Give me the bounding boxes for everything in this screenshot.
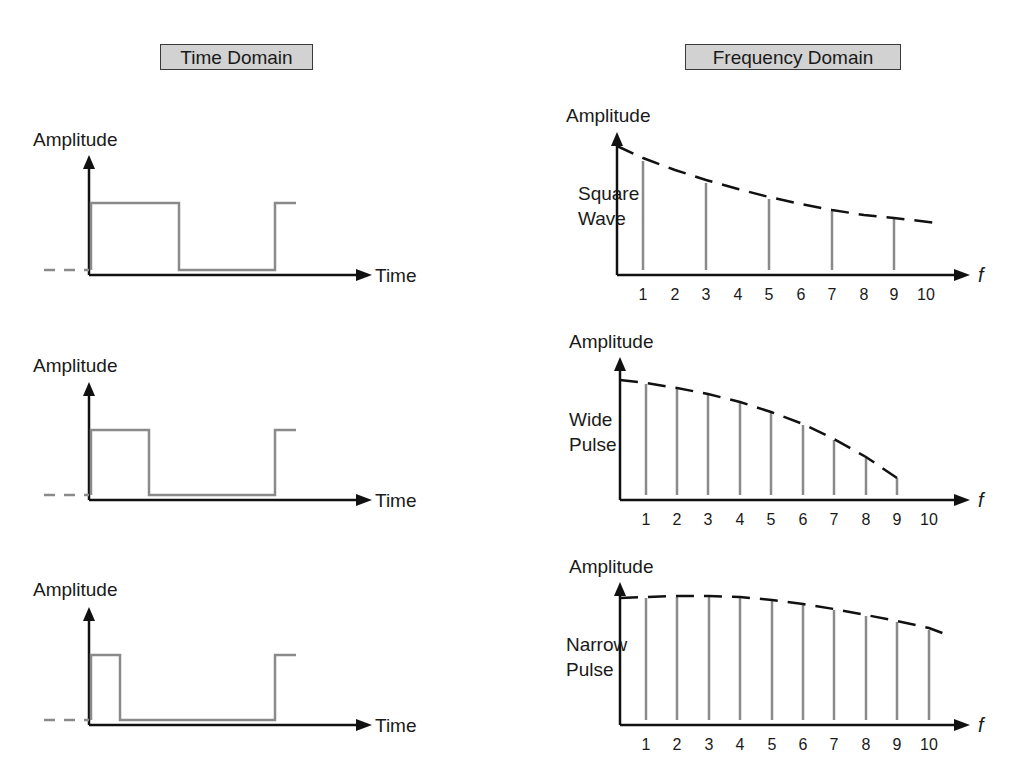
spectrum-label: Pulse [566,659,614,680]
frequency-domain-panels: AmplitudeSquareWavef12345678910Amplitude… [566,105,986,753]
y-axis-arrow-icon [83,155,95,169]
pulse-waveform [91,655,296,720]
tick-label: 8 [862,736,871,753]
narrow-pulse-spectrum: AmplitudeNarrowPulsef12345678910 [566,556,986,753]
tick-label: 1 [642,736,651,753]
square-wave-spectrum: AmplitudeSquareWavef12345678910 [566,105,986,303]
tick-label: 3 [704,511,713,528]
tick-label: 4 [736,511,745,528]
tick-label: 6 [799,736,808,753]
tick-label: 9 [890,286,899,303]
pulse-waveform [91,430,296,495]
tick-label: 7 [828,286,837,303]
tick-label: 3 [702,286,711,303]
tick-label: 3 [705,736,714,753]
tick-label: 6 [799,511,808,528]
tick-label: 5 [768,736,777,753]
diagram-canvas: AmplitudeTimeAmplitudeTimeAmplitudeTime … [0,0,1016,778]
tick-label: 2 [673,736,682,753]
spectrum-label: Narrow [566,634,628,655]
tick-label: 7 [830,736,839,753]
tick-label: 8 [862,511,871,528]
tick-label: 5 [765,286,774,303]
y-axis-label: Amplitude [569,556,654,577]
y-axis-label: Amplitude [566,105,651,126]
x-axis-arrow-icon [356,269,372,281]
time-domain-panels: AmplitudeTimeAmplitudeTimeAmplitudeTime [33,129,417,736]
x-axis-arrow-icon [356,494,372,506]
envelope-dashed-line [617,146,937,223]
tick-label: 10 [920,511,938,528]
spectrum-label: Wide [569,409,612,430]
y-axis-arrow-icon [83,382,95,396]
tick-label: 2 [673,511,682,528]
y-axis-arrow-icon [614,582,626,596]
tick-label: 1 [639,286,648,303]
narrow-pulse-time: AmplitudeTime [33,579,417,736]
tick-label: 5 [767,511,776,528]
y-axis-label: Amplitude [569,331,654,352]
tick-label: 9 [893,736,902,753]
pulse-waveform [91,203,296,270]
spectrum-label: Square [578,183,639,204]
x-axis-label: f [978,489,986,511]
square-wave-time: AmplitudeTime [33,129,417,286]
tick-label: 4 [734,286,743,303]
y-axis-arrow-icon [611,132,623,146]
y-axis-arrow-icon [614,357,626,371]
tick-label: 2 [671,286,680,303]
spectrum-label: Wave [578,208,626,229]
tick-label: 4 [736,736,745,753]
tick-label: 10 [917,286,935,303]
x-axis-label: Time [375,490,417,511]
spectrum-label: Pulse [569,434,617,455]
wide-pulse-time: AmplitudeTime [33,355,417,511]
y-axis-label: Amplitude [33,355,118,376]
tick-label: 1 [642,511,651,528]
y-axis-arrow-icon [83,607,95,621]
x-axis-label: f [978,714,986,736]
x-axis-arrow-icon [954,269,970,281]
x-axis-arrow-icon [954,494,970,506]
tick-label: 6 [797,286,806,303]
y-axis-label: Amplitude [33,129,118,150]
y-axis-label: Amplitude [33,579,118,600]
x-axis-label: f [978,264,986,286]
tick-label: 9 [893,511,902,528]
x-axis-arrow-icon [954,719,970,731]
x-axis-arrow-icon [356,719,372,731]
x-axis-label: Time [375,265,417,286]
x-axis-label: Time [375,715,417,736]
tick-label: 7 [830,511,839,528]
tick-label: 10 [920,736,938,753]
tick-label: 8 [860,286,869,303]
wide-pulse-spectrum: AmplitudeWidePulsef12345678910 [569,331,986,528]
envelope-dashed-line [620,380,897,478]
